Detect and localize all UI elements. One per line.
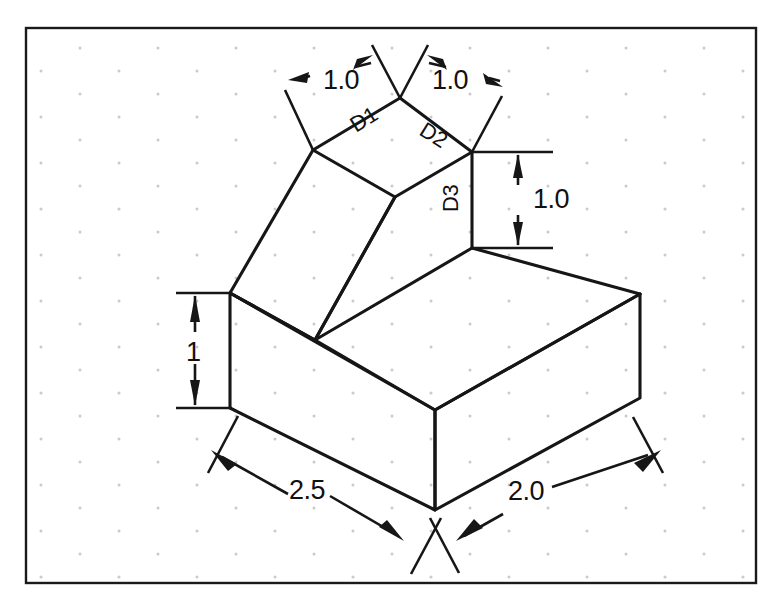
- dim-label-left-vertical: 1: [186, 337, 201, 367]
- dim-label-top-right: 1.0: [432, 65, 468, 95]
- dim-label-top-left: 1.0: [323, 65, 359, 95]
- dim-label-right-vertical: 1.0: [533, 184, 569, 214]
- dim-label-bottom-left: 2.5: [289, 475, 325, 505]
- isometric-drawing-svg: 1.0 1.0 1.0: [0, 0, 779, 604]
- dim-label-bottom-right: 2.0: [508, 476, 544, 506]
- face-label-d3: D3: [438, 184, 463, 212]
- technical-drawing-canvas: 1.0 1.0 1.0: [0, 0, 779, 604]
- iso-dot-grid: [28, 30, 754, 581]
